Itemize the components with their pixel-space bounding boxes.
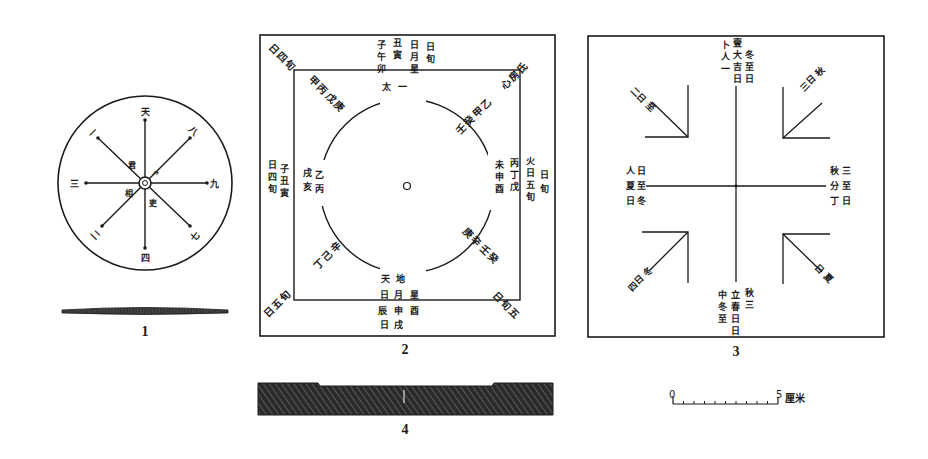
svg-text:日五旬: 日五旬 [261,288,293,320]
svg-text:卯: 卯 [377,63,386,74]
panel-4-section-profile [258,383,553,415]
panel-2-square-board: 甲丙戊庚 日四旬 壬癸甲乙 心房氐 丁己辛 日五旬 庚辛壬癸 日旬五 子午卯 丑… [260,35,555,336]
svg-text:旬: 旬 [539,183,549,194]
svg-text:五: 五 [526,180,535,190]
mark-right: 九 [209,178,219,189]
svg-text:日: 日 [526,168,535,178]
svg-text:七: 七 [188,229,202,243]
svg-text:人: 人 [720,51,731,62]
svg-text:申: 申 [495,171,504,182]
svg-text:旬: 旬 [425,53,435,64]
svg-text:日: 日 [380,320,389,330]
svg-text:亥: 亥 [303,181,312,192]
panel-2-label: 2 [402,342,409,358]
svg-text:寅: 寅 [280,187,289,198]
svg-text:日: 日 [626,196,635,206]
svg-text:至: 至 [637,181,646,191]
svg-text:日: 日 [731,314,740,324]
svg-text:戌: 戌 [303,167,312,178]
svg-text:秋: 秋 [829,165,840,176]
svg-text:乙: 乙 [315,170,324,180]
svg-text:未: 未 [494,159,505,170]
svg-text:三: 三 [745,300,754,310]
svg-text:卜: 卜 [721,40,730,50]
svg-text:日四旬: 日四旬 [267,41,299,73]
panel-1-section-profile [62,308,228,315]
svg-text:月: 月 [409,52,419,62]
svg-text:中: 中 [718,289,727,300]
svg-text:至: 至 [718,314,727,324]
svg-text:四日 冬: 四日 冬 [626,263,656,293]
svg-text:日: 日 [268,160,277,170]
mark-top: 天 [141,107,151,117]
panel-4-label: 4 [402,422,409,438]
svg-text:分: 分 [830,180,839,191]
svg-text:日: 日 [637,166,646,176]
svg-text:壹: 壹 [733,37,742,48]
svg-text:吏: 吏 [149,198,158,208]
svg-text:星: 星 [410,64,419,74]
svg-text:冬: 冬 [637,195,647,206]
svg-text:四: 四 [268,172,277,182]
svg-text:日旬五: 日旬五 [491,289,523,321]
svg-text:丁: 丁 [510,170,519,180]
svg-text:吉: 吉 [733,61,742,72]
svg-text:午: 午 [377,51,386,62]
svg-text:冬: 冬 [718,301,728,312]
svg-text:地: 地 [396,273,405,284]
svg-text:丙: 丙 [510,158,519,168]
svg-text:日: 日 [842,196,851,206]
panel-1-round-board: 天 四 三 九 一 八 二 七 君 相 吏 ⺈ [58,96,232,315]
svg-text:日: 日 [733,74,742,84]
svg-text:⺈: ⺈ [152,170,160,180]
svg-text:甲丙戊庚: 甲丙戊庚 [307,73,349,115]
scale-end-label: 5 [776,389,782,400]
scale-bar [673,396,778,404]
svg-text:一: 一 [398,82,407,92]
mark-left: 三 [70,179,79,189]
panel-1-label: 1 [142,324,149,340]
svg-text:丁己辛: 丁己辛 [311,237,345,271]
svg-text:三日 秋: 三日 秋 [798,63,828,93]
svg-text:心房氐: 心房氐 [498,60,530,92]
svg-text:二: 二 [89,228,102,241]
svg-text:天: 天 [381,274,391,284]
svg-text:太: 太 [381,81,392,92]
svg-text:日: 日 [410,40,419,50]
scale-start-label: 0 [669,389,675,400]
svg-text:申: 申 [394,305,403,316]
svg-text:夏: 夏 [625,181,636,191]
svg-text:戊: 戊 [509,181,519,192]
svg-text:日 夏: 日 夏 [813,262,836,285]
svg-text:三: 三 [842,166,851,176]
svg-text:旬: 旬 [267,183,277,194]
scale-unit-label: 厘米 [785,390,805,405]
svg-text:子: 子 [377,40,386,50]
svg-text:冬: 冬 [745,49,755,60]
svg-text:酉: 酉 [410,306,419,316]
svg-text:子: 子 [280,164,289,174]
svg-text:旬: 旬 [525,191,535,202]
svg-text:日: 日 [745,74,754,84]
svg-text:一: 一 [721,64,730,74]
svg-text:相: 相 [125,188,133,198]
svg-text:日: 日 [426,42,435,52]
svg-text:戌: 戌 [394,319,403,330]
panel-3-square-board: 卜人一 壹大吉日 冬至日 中冬至 立春日日 秋三 人日 夏至 日冬 秋三 分至 … [588,36,884,337]
svg-text:辰: 辰 [378,306,388,316]
svg-text:丑: 丑 [393,38,402,48]
svg-text:丙: 丙 [315,184,324,194]
svg-text:丁: 丁 [830,196,839,206]
svg-text:月: 月 [393,290,403,300]
svg-text:日: 日 [380,290,389,300]
svg-text:寅: 寅 [393,49,402,60]
svg-text:酉: 酉 [495,184,504,194]
svg-text:君: 君 [127,161,136,170]
svg-text:星: 星 [410,290,419,300]
svg-text:立: 立 [731,289,740,300]
svg-text:八: 八 [186,124,201,139]
svg-text:丑: 丑 [280,176,289,186]
svg-text:至: 至 [745,62,754,72]
svg-text:至: 至 [842,181,851,191]
svg-text:秋: 秋 [744,287,755,298]
